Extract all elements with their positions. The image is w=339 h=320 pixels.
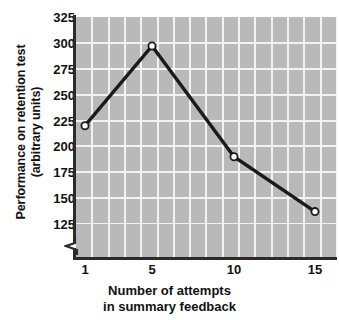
- x-axis-tick-labels: 151015: [0, 0, 339, 320]
- x-axis-title: Number of attempts in summary feedback: [0, 283, 339, 315]
- x-axis-tick-label: 10: [214, 262, 254, 277]
- x-axis-title-line-1: Number of attempts: [0, 283, 339, 299]
- retention-performance-chart: Performance on retention test (arbitrary…: [0, 0, 339, 320]
- x-axis-title-line-2: in summary feedback: [0, 299, 339, 315]
- x-axis-tick-label: 1: [65, 262, 105, 277]
- x-axis-tick-label: 15: [295, 262, 335, 277]
- x-axis-tick-label: 5: [132, 262, 172, 277]
